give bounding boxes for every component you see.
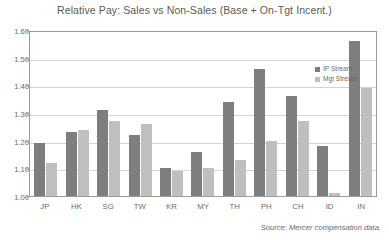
bar	[235, 160, 246, 196]
bar-group	[61, 32, 92, 196]
bar-group	[219, 32, 250, 196]
legend-label-mgt-stream: Mgt Stream	[323, 75, 357, 83]
x-axis-tick-label: SG	[92, 199, 124, 215]
bar	[172, 171, 183, 196]
bar-group	[282, 32, 313, 196]
bar	[160, 168, 171, 196]
bar	[97, 110, 108, 196]
chart-container: Relative Pay: Sales vs Non-Sales (Base +…	[0, 0, 389, 240]
bar-group	[345, 32, 376, 196]
bar-groups	[30, 32, 376, 196]
bar	[286, 96, 297, 196]
x-axis-tick-label: CH	[282, 199, 314, 215]
legend-swatch-icon-ip-stream	[315, 67, 320, 72]
x-axis-tick-label: MY	[187, 199, 219, 215]
bar	[203, 168, 214, 196]
bar	[78, 130, 89, 196]
bar-group	[30, 32, 61, 196]
bar	[129, 135, 140, 196]
plot-area: IP Stream Mgt Stream	[29, 31, 377, 197]
bar	[317, 146, 328, 196]
bar	[298, 121, 309, 196]
x-axis: JPHKSGTWKRMYTHPHCHIDIN	[29, 199, 377, 215]
bar	[223, 102, 234, 196]
bar	[141, 124, 152, 196]
x-axis-tick-label: IN	[345, 199, 377, 215]
bar-group	[187, 32, 218, 196]
y-axis: 1.601.501.401.301.201.101.00	[0, 31, 29, 197]
bar-group	[156, 32, 187, 196]
bar	[329, 193, 340, 196]
legend-item-mgt-stream: Mgt Stream	[315, 75, 375, 83]
x-axis-tick-label: TH	[219, 199, 251, 215]
x-axis-tick-label: PH	[250, 199, 282, 215]
bar-group	[124, 32, 155, 196]
chart-legend: IP Stream Mgt Stream	[315, 65, 375, 85]
bar	[191, 152, 202, 196]
bar-group	[250, 32, 281, 196]
x-axis-tick-label: KR	[156, 199, 188, 215]
bar	[361, 88, 372, 196]
bar	[66, 132, 77, 196]
legend-swatch-icon-mgt-stream	[315, 77, 320, 82]
bar	[266, 141, 277, 196]
bar	[109, 121, 120, 196]
x-axis-tick-label: JP	[29, 199, 61, 215]
bar-group	[93, 32, 124, 196]
x-axis-tick-label: TW	[124, 199, 156, 215]
x-axis-tick-label: HK	[61, 199, 93, 215]
bar	[34, 143, 45, 196]
chart-title: Relative Pay: Sales vs Non-Sales (Base +…	[0, 4, 389, 16]
legend-label-ip-stream: IP Stream	[323, 65, 352, 73]
bar	[254, 69, 265, 196]
bar	[46, 163, 57, 196]
source-note: Source: Mercer compensation data.	[261, 223, 381, 232]
bar-group	[313, 32, 344, 196]
legend-item-ip-stream: IP Stream	[315, 65, 375, 73]
x-axis-tick-label: ID	[314, 199, 346, 215]
